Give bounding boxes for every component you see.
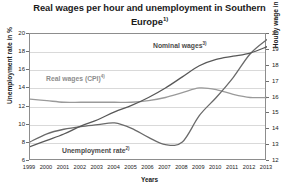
y-axis-right-tick-label: 20 xyxy=(272,30,284,36)
plot-area xyxy=(29,33,266,160)
y-axis-left-tick-label: 16 xyxy=(13,66,25,72)
y-axis-left-tick-label: 10 xyxy=(13,121,25,127)
y-axis-right-tick-mark xyxy=(266,112,269,113)
y-axis-left-tick-mark xyxy=(26,124,29,125)
y-axis-left-tick-mark xyxy=(26,33,29,34)
y-axis-right-tick-mark xyxy=(266,49,269,50)
line-nominal-wages xyxy=(30,47,267,147)
y-axis-left-tick-label: 20 xyxy=(13,30,25,36)
y-axis-right-tick-mark xyxy=(266,81,269,82)
series-lines xyxy=(30,34,267,161)
y-axis-left-tick-mark xyxy=(26,142,29,143)
series-label-unemployment-text: Unemployment rate xyxy=(62,147,125,154)
y-axis-right-tick-mark xyxy=(266,33,269,34)
x-axis-tick-label: 2013 xyxy=(255,164,277,170)
y-axis-right-tick-mark xyxy=(266,144,269,145)
y-axis-left-tick-mark xyxy=(26,106,29,107)
title-footnote-marker: 1) xyxy=(163,16,168,22)
y-axis-right-tick-label: 19 xyxy=(272,46,284,52)
y-axis-right-tick-label: 14 xyxy=(272,125,284,131)
series-label-nominal-text: Nominal wages xyxy=(153,42,202,49)
y-axis-left-tick-label: 18 xyxy=(13,48,25,54)
y-axis-right-tick-label: 13 xyxy=(272,141,284,147)
chart-figure: Real wages per hour and unemployment in … xyxy=(0,0,299,186)
y-axis-right-tick-mark xyxy=(266,160,269,161)
series-label-real-wages: Real wages (CPI)4) xyxy=(46,74,105,82)
y-axis-left-tick-label: 8 xyxy=(13,139,25,145)
y-axis-right-tick-label: 16 xyxy=(272,94,284,100)
y-axis-left-title: Unemployment rate in % xyxy=(6,6,13,126)
y-axis-right-tick-mark xyxy=(266,65,269,66)
chart-title-text: Real wages per hour and unemployment in … xyxy=(33,2,266,27)
x-axis-title: Years xyxy=(0,176,299,183)
y-axis-left-tick-label: 14 xyxy=(13,84,25,90)
y-axis-left-tick-mark xyxy=(26,87,29,88)
line-unemployment-rate xyxy=(30,39,267,145)
y-axis-right-tick-label: 18 xyxy=(272,62,284,68)
y-axis-left-tick-label: 6 xyxy=(13,157,25,163)
real-footnote-marker: 4) xyxy=(101,74,105,79)
y-axis-right-tick-label: 15 xyxy=(272,109,284,115)
y-axis-right-tick-mark xyxy=(266,128,269,129)
y-axis-left-tick-mark xyxy=(26,69,29,70)
y-axis-left-tick-mark xyxy=(26,51,29,52)
y-axis-right-tick-label: 17 xyxy=(272,78,284,84)
series-label-nominal-wages: Nominal wages3) xyxy=(153,41,207,49)
nominal-footnote-marker: 3) xyxy=(202,41,206,46)
y-axis-right-tick-mark xyxy=(266,97,269,98)
y-axis-left-tick-mark xyxy=(26,160,29,161)
y-axis-right-tick-label: 12 xyxy=(272,157,284,163)
series-label-real-text: Real wages (CPI) xyxy=(46,75,101,82)
y-axis-left-tick-label: 12 xyxy=(13,103,25,109)
line-real-wages xyxy=(30,88,267,103)
unemployment-footnote-marker: 2) xyxy=(125,146,129,151)
chart-title: Real wages per hour and unemployment in … xyxy=(14,2,285,27)
series-label-unemployment: Unemployment rate2) xyxy=(62,146,130,154)
